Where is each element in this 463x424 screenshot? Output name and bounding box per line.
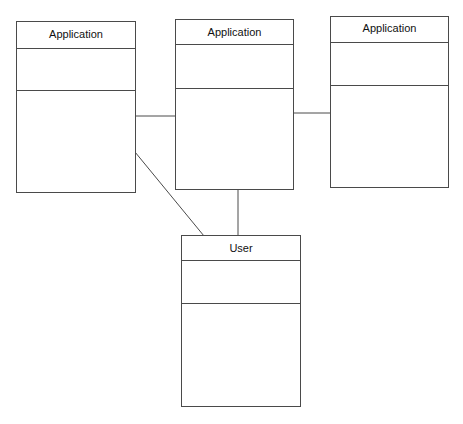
- class-name: Application: [208, 26, 262, 38]
- attributes-compartment: [182, 261, 300, 304]
- class-name: Application: [363, 22, 417, 34]
- class-name: Application: [49, 28, 103, 40]
- operations-compartment: [17, 91, 135, 192]
- attributes-compartment: [17, 49, 135, 91]
- class-name-compartment: Application: [17, 22, 135, 49]
- class-box-application-2[interactable]: Application: [175, 19, 294, 190]
- class-box-user[interactable]: User: [181, 235, 301, 407]
- operations-compartment: [176, 89, 293, 189]
- class-name: User: [229, 242, 252, 254]
- class-name-compartment: User: [182, 236, 300, 261]
- class-name-compartment: Application: [331, 17, 448, 43]
- attributes-compartment: [331, 43, 448, 86]
- attributes-compartment: [176, 45, 293, 89]
- operations-compartment: [331, 86, 448, 187]
- class-name-compartment: Application: [176, 20, 293, 45]
- class-box-application-3[interactable]: Application: [330, 16, 449, 188]
- class-box-application-1[interactable]: Application: [16, 21, 136, 193]
- operations-compartment: [182, 304, 300, 406]
